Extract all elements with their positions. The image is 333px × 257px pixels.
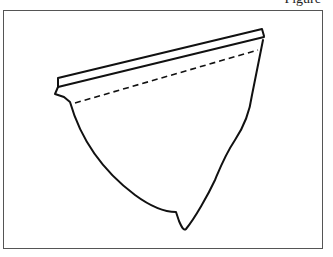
cone-outline <box>55 40 263 230</box>
top-edge-inner <box>58 37 264 87</box>
folded-cone-drawing <box>0 0 333 257</box>
